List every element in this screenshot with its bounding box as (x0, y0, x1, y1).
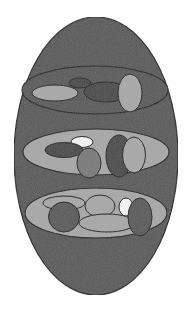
dark-circle (49, 202, 80, 232)
bottom-band (25, 188, 167, 238)
light-horizontal-ellipse (32, 85, 78, 101)
light-vertical-ellipse (118, 74, 142, 112)
top-band (22, 66, 168, 114)
diagram-layers (14, 17, 178, 295)
mid-vertical-ellipse (77, 148, 101, 178)
light-vertical-ellipse (123, 137, 146, 173)
diagram-canvas (0, 0, 191, 310)
dark-horizontal-ellipse (45, 143, 83, 158)
dark-vertical-ellipse (128, 198, 152, 236)
light-lower-wide-ellipse (79, 214, 135, 232)
